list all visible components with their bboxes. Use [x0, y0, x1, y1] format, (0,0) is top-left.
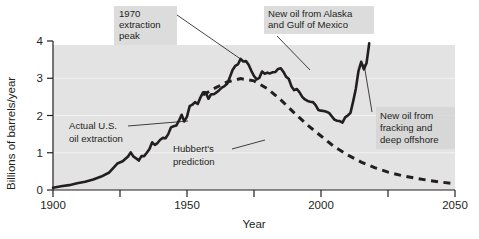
oil-extraction-line-chart: 4 3 2 1 0 Billions of barrels/year 1900 … [0, 0, 479, 239]
y-tick-label-0: 0 [37, 184, 43, 196]
annotation-fracking-offshore-line-3: deep offshore [380, 134, 439, 145]
x-tick-label-1950: 1950 [174, 199, 200, 211]
annotation-alaska-gulf-line-1: New oil from Alaska [268, 8, 353, 19]
annotation-alaska-gulf: New oil from Alaska and Gulf of Mexico [264, 6, 374, 34]
x-axis: 1900 1950 2000 2050 [40, 190, 468, 211]
x-tick-label-2050: 2050 [442, 199, 468, 211]
y-tick-label-4: 4 [37, 35, 44, 47]
y-tick-label-3: 3 [37, 72, 43, 84]
x-tick-label-1900: 1900 [40, 199, 66, 211]
x-axis-title: Year [242, 218, 265, 230]
chart-figure: 4 3 2 1 0 Billions of barrels/year 1900 … [0, 0, 479, 239]
annotation-fracking-offshore: New oil from fracking and deep offshore [376, 107, 455, 149]
y-axis-title: Billions of barrels/year [5, 77, 17, 190]
annotation-actual-extraction-line-2: oil extraction [69, 133, 123, 144]
annotation-fracking-offshore-line-2: fracking and [380, 122, 432, 133]
annotation-peak-1970: 1970 extraction peak [114, 6, 177, 45]
annotation-peak-1970-line-3: peak [119, 30, 140, 41]
x-tick-label-2000: 2000 [308, 199, 334, 211]
annotation-hubbert-prediction-line-2: prediction [173, 156, 215, 167]
annotation-peak-1970-line-1: 1970 [119, 8, 140, 19]
y-tick-label-1: 1 [37, 147, 43, 159]
y-axis: 4 3 2 1 0 [37, 35, 53, 196]
annotation-fracking-offshore-line-1: New oil from [380, 110, 433, 121]
annotation-actual-extraction-line-1: Actual U.S. [69, 120, 117, 131]
annotation-hubbert-prediction-line-1: Hubbert's [173, 143, 214, 154]
annotation-peak-1970-line-2: extraction [119, 19, 161, 30]
y-tick-label-2: 2 [37, 110, 43, 122]
annotation-alaska-gulf-line-2: and Gulf of Mexico [268, 19, 348, 30]
